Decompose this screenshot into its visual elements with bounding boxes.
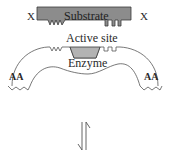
active-site-label: Active site [66,32,118,44]
equilibrium-arrow-icon [78,122,90,150]
x-label-right: X [140,11,148,22]
aa-label-right: AA [144,72,158,82]
aa-label-left: AA [9,72,23,82]
substrate-label: Substrate [64,10,109,22]
enzyme-label: Enzyme [68,57,107,69]
enzyme-substrate-diagram: X Substrate X Active site Enzyme AA AA [0,0,170,161]
x-label-left: X [27,11,35,22]
